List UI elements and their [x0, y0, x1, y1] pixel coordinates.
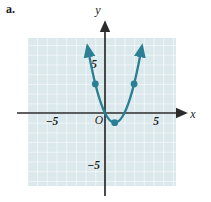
origin-label: O: [95, 114, 104, 126]
plotted-point-2: [131, 81, 138, 88]
x-axis-label: x: [189, 107, 196, 121]
plotted-point-1: [111, 119, 118, 126]
y-axis-label: y: [94, 3, 101, 17]
y-tick-label-neg5: −5: [87, 159, 100, 171]
coordinate-plane: x y O −5 5 5 −5: [0, 0, 211, 202]
figure-container: a. x y O −5: [0, 0, 211, 202]
x-tick-label-neg5: −5: [46, 115, 59, 127]
x-tick-label-5: 5: [153, 115, 159, 127]
plotted-point-0: [92, 81, 99, 88]
grid-background: [28, 38, 176, 186]
